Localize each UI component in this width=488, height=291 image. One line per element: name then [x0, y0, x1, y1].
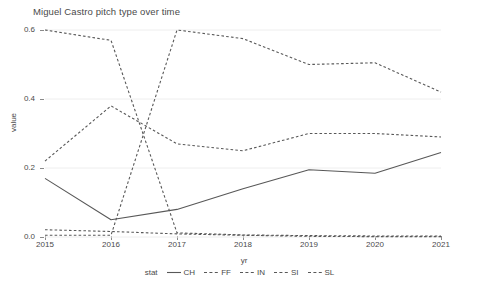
legend-label: SL	[325, 268, 335, 277]
x-tick-mark	[441, 236, 442, 240]
chart-title: Miguel Castro pitch type over time	[33, 6, 180, 17]
x-tick-label: 2019	[286, 240, 332, 249]
y-tick-label: 0.6	[5, 25, 35, 34]
legend-label: SI	[291, 268, 299, 277]
legend-item-sl[interactable]: SL	[308, 268, 335, 277]
y-axis-label: value	[9, 103, 18, 143]
legend-label: CH	[184, 268, 196, 277]
x-tick-label: 2020	[352, 240, 398, 249]
legend-swatch-icon	[240, 268, 254, 277]
legend-swatch-icon	[204, 268, 218, 277]
legend-item-ch[interactable]: CH	[167, 268, 196, 277]
y-tick-mark	[40, 30, 44, 31]
y-tick-mark	[40, 237, 44, 238]
plot-svg	[45, 30, 441, 237]
legend-label: IN	[257, 268, 265, 277]
legend-swatch-icon	[308, 268, 322, 277]
chart-container: Miguel Castro pitch type over time value…	[0, 0, 488, 291]
x-tick-label: 2018	[220, 240, 266, 249]
series-line-in	[45, 106, 441, 161]
series-line-ff	[45, 30, 441, 236]
x-tick-label: 2017	[154, 240, 200, 249]
y-tick-mark	[40, 168, 44, 169]
x-axis-label: yr	[0, 256, 488, 265]
legend-item-ff[interactable]: FF	[204, 268, 231, 277]
x-tick-label: 2015	[22, 240, 68, 249]
x-tick-label: 2016	[88, 240, 134, 249]
series-line-ch	[45, 152, 441, 219]
legend-swatch-icon	[167, 268, 181, 277]
y-tick-mark	[40, 99, 44, 100]
legend-item-in[interactable]: IN	[240, 268, 265, 277]
plot-area	[45, 30, 441, 237]
series-line-si	[45, 30, 441, 235]
x-tick-label: 2021	[418, 240, 464, 249]
legend-title: stat	[145, 268, 158, 277]
y-tick-label: 0.4	[5, 94, 35, 103]
chart-legend: stat CHFFINSISL	[0, 268, 488, 277]
legend-item-si[interactable]: SI	[274, 268, 299, 277]
y-tick-label: 0.2	[5, 163, 35, 172]
legend-label: FF	[221, 268, 231, 277]
legend-swatch-icon	[274, 268, 288, 277]
